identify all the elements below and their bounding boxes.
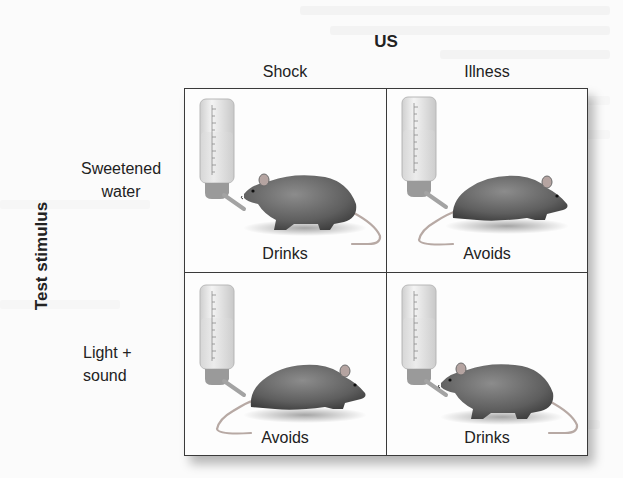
outcome-label: Avoids [185, 429, 385, 447]
test-stimulus-axis-title: Test stimulus [32, 202, 52, 310]
outcome-grid: Drinks Avoids Avoids Drinks [184, 88, 588, 456]
row-header-sweetened-water: Sweetened water [60, 157, 182, 203]
cell-sweetened-water-shock: Drinks [185, 89, 385, 271]
row-header-line: Sweetened [60, 157, 182, 180]
water-bottle-icon [200, 285, 244, 395]
cell-light-sound-shock: Avoids [185, 273, 385, 455]
row-header-line: water [60, 180, 182, 203]
rat-icon [419, 176, 569, 245]
rat-icon [241, 174, 380, 244]
outcome-label: Drinks [185, 245, 385, 263]
rat-icon [438, 363, 577, 433]
outcome-label: Avoids [387, 245, 587, 263]
column-header-shock: Shock [184, 63, 386, 81]
water-bottle-icon [402, 285, 446, 395]
water-bottle-icon [402, 97, 446, 207]
cell-light-sound-illness: Drinks [387, 273, 587, 455]
row-header-line: sound [83, 364, 131, 387]
us-axis-title: US [336, 32, 436, 52]
row-header-line: Light + [83, 341, 131, 364]
rat-icon [217, 365, 367, 434]
water-bottle-icon [200, 99, 244, 209]
outcome-label: Drinks [387, 429, 587, 447]
column-header-illness: Illness [386, 63, 588, 81]
row-header-light-sound: Light + sound [83, 341, 131, 387]
cell-sweetened-water-illness: Avoids [387, 89, 587, 271]
